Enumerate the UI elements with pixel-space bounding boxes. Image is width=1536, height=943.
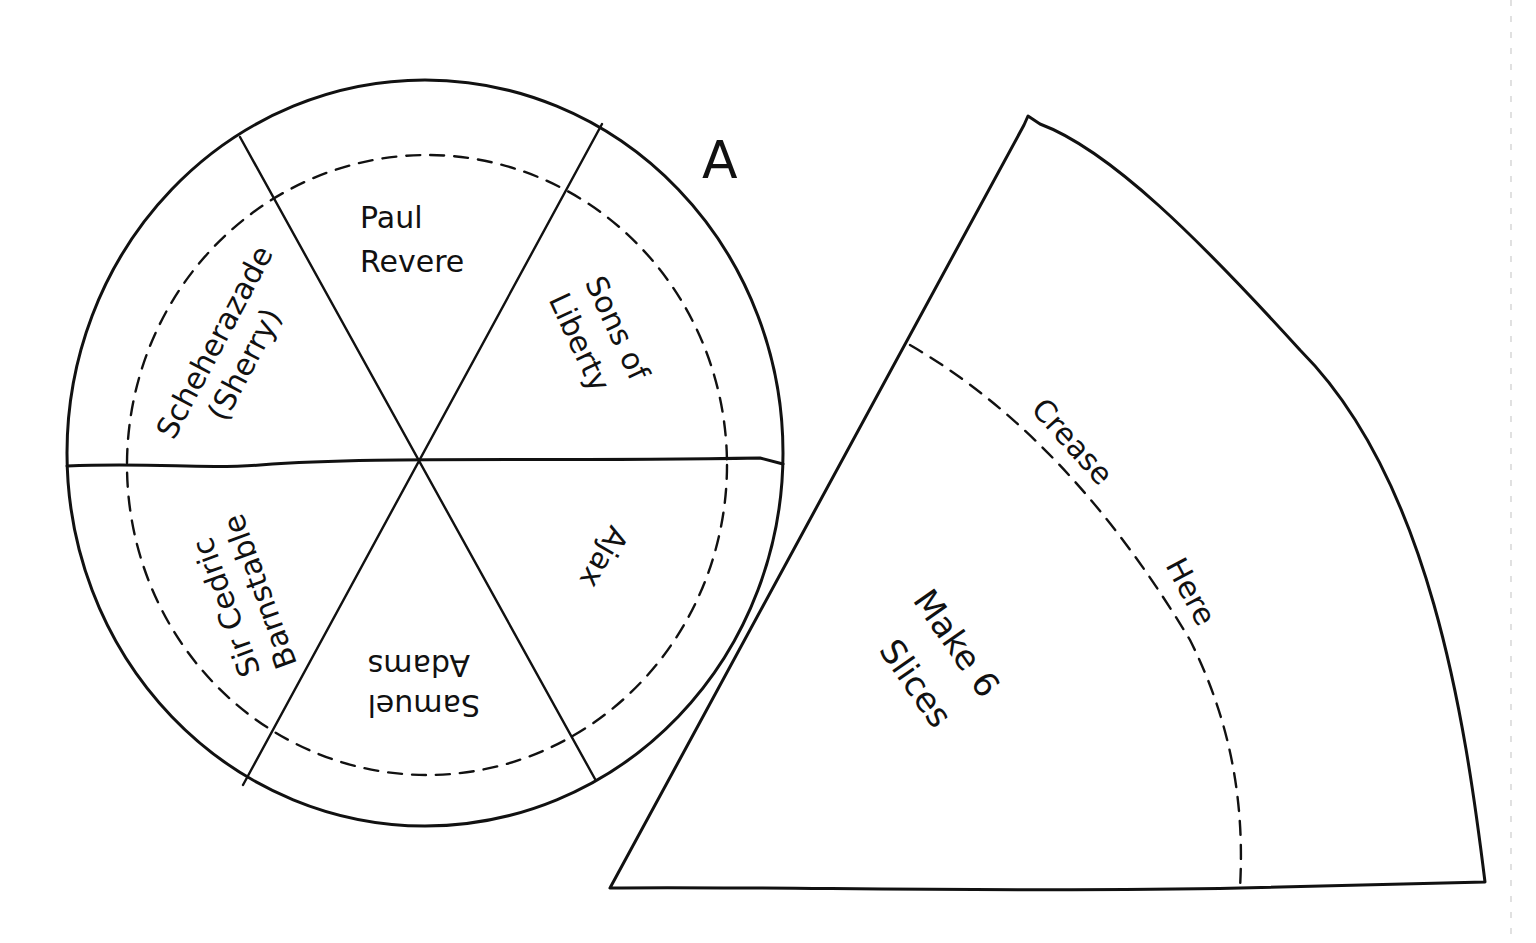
slice-text: Samuel: [368, 688, 480, 723]
wedge-pattern: [610, 116, 1485, 890]
pattern-diagram: Paul Revere Sons of Liberty Ajax Samuel …: [0, 0, 1536, 943]
here-text: Here: [1159, 552, 1223, 631]
slice-label-paul-revere: Paul Revere: [360, 200, 464, 279]
slice-text: Ajax: [573, 521, 636, 595]
slice-text: Paul: [360, 200, 422, 235]
horizontal-divider: [67, 458, 783, 467]
slice-text: Revere: [360, 244, 464, 279]
pattern-label-a: A: [702, 130, 738, 190]
slice-text: Adams: [368, 648, 470, 683]
slice-label-scheherazade: Scheherazade (Sherry): [149, 240, 312, 462]
wedge-outline: [610, 116, 1485, 890]
crease-label: Crease Here: [1025, 391, 1223, 631]
crease-text: Crease: [1025, 391, 1120, 491]
slice-label-samuel-adams: Samuel Adams: [368, 648, 480, 723]
wedge-instruction: Make 6 Slices: [871, 582, 1008, 735]
diagonal-divider-2: [243, 124, 602, 785]
slice-label-ajax: Ajax: [573, 521, 636, 595]
slice-label-sir-cedric-barnstable: Sir Cedric Barnstable: [181, 510, 304, 686]
slice-label-sons-of-liberty: Sons of Liberty: [542, 270, 657, 403]
